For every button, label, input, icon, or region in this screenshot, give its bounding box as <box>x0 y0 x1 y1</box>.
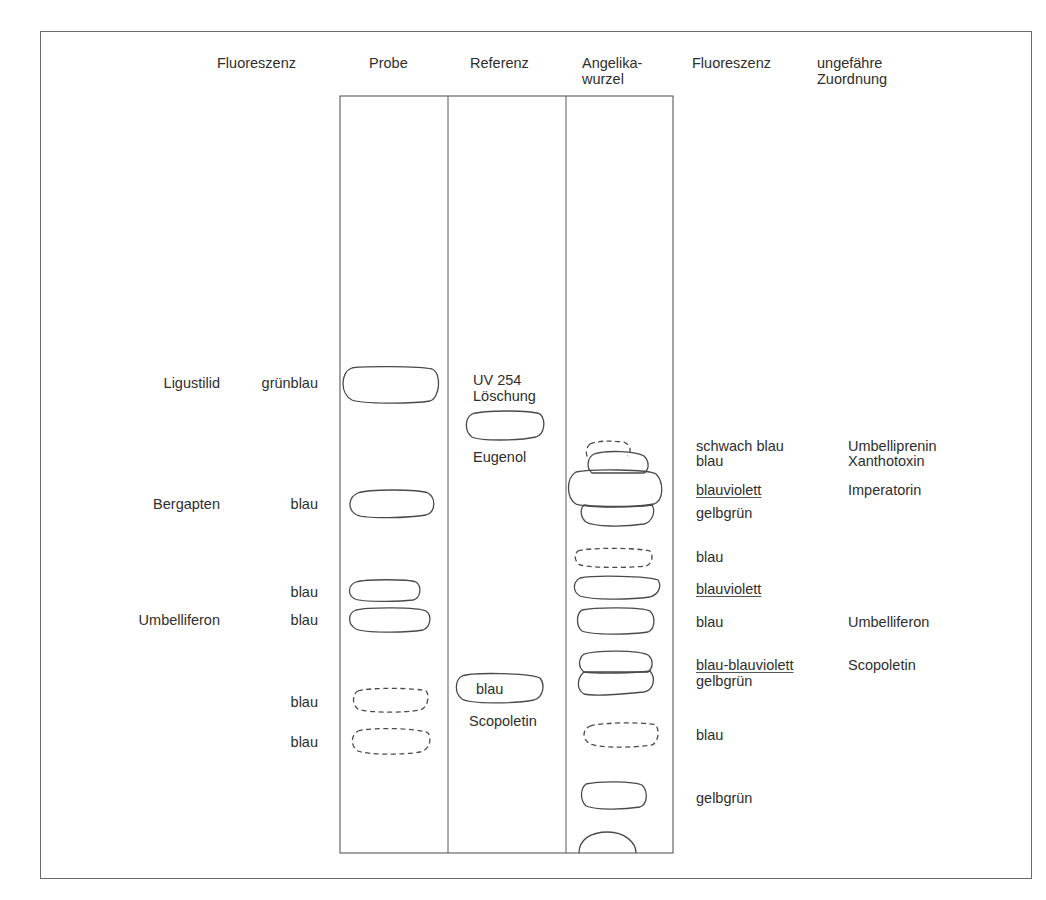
spot-umbelliprenin-dashed-left <box>586 444 590 458</box>
angelica-fluor-blau-blauviolett: blau-blauviolett <box>696 657 794 673</box>
probe-fluorescence-blau-1: blau <box>230 496 318 512</box>
reference-scopoletin-spot-label: blau <box>476 681 503 697</box>
spot-gelbgruen-2 <box>578 671 653 695</box>
reference-scopoletin: Scopoletin <box>469 713 537 729</box>
spot-imperatorin <box>569 470 662 507</box>
probe-fluorescence-blau-4: blau <box>230 694 318 710</box>
probe-fluorescence-blau-5: blau <box>230 734 318 750</box>
spot-blau-dashed-a <box>575 548 652 567</box>
angelica-fluor-gelbgruen-2: gelbgrün <box>696 673 752 689</box>
spot-scopoletin-ang-top <box>580 651 653 672</box>
spot-blauviolett <box>574 576 659 599</box>
spot-blau-dashed-2 <box>352 729 430 755</box>
probe-compound-ligustilid: Ligustilid <box>120 375 220 391</box>
assignment-umbelliprenin: Umbelliprenin <box>848 438 937 454</box>
reference-uv-line2: Löschung <box>473 388 536 404</box>
spot-blau-dashed-1 <box>354 688 429 712</box>
angelica-fluor-blau-2: blau <box>696 549 723 565</box>
angelica-fluor-blauviolett-2: blauviolett <box>696 581 761 597</box>
angelica-fluor-blau-3: blau <box>696 614 723 630</box>
assignment-umbelliferon: Umbelliferon <box>848 614 929 630</box>
angelica-fluor-gelbgruen-3: gelbgrün <box>696 790 752 806</box>
assignment-imperatorin: Imperatorin <box>848 482 921 498</box>
assignment-xanthotoxin: Xanthotoxin <box>848 453 925 469</box>
assignment-scopoletin: Scopoletin <box>848 657 916 673</box>
angelica-fluor-schwach-blau: schwach blau <box>696 438 784 454</box>
probe-fluorescence-blau-2: blau <box>230 584 318 600</box>
reference-eugenol: Eugenol <box>473 449 526 465</box>
probe-fluorescence-blau-3: blau <box>230 612 318 628</box>
spot-bottom <box>579 832 636 853</box>
spot-ligustilid <box>343 367 439 404</box>
spot-blau-dashed-b <box>584 723 658 747</box>
spot-bergapten <box>350 490 434 518</box>
angelica-fluor-gelbgruen-1: gelbgrün <box>696 505 752 521</box>
reference-uv-line1: UV 254 <box>473 372 521 388</box>
probe-compound-umbelliferon: Umbelliferon <box>90 612 220 628</box>
angelica-fluor-blau-1: blau <box>696 453 723 469</box>
angelica-fluor-blauviolett-1: blauviolett <box>696 482 761 498</box>
angelica-spots <box>569 441 662 853</box>
spot-gelbgruen-3 <box>582 782 647 809</box>
spot-eugenol <box>466 411 543 440</box>
spot-umbelliferon <box>350 608 430 632</box>
probe-spots <box>343 367 439 755</box>
probe-compound-bergapten: Bergapten <box>100 496 220 512</box>
spot-gelbgruen-1 <box>581 505 653 526</box>
plate-border <box>340 96 673 853</box>
angelica-fluor-blau-4: blau <box>696 727 723 743</box>
probe-fluorescence-gruenblau: grünblau <box>230 375 318 391</box>
spot-umbelliferon-ang <box>578 608 654 634</box>
spot-blau-1 <box>349 580 419 602</box>
